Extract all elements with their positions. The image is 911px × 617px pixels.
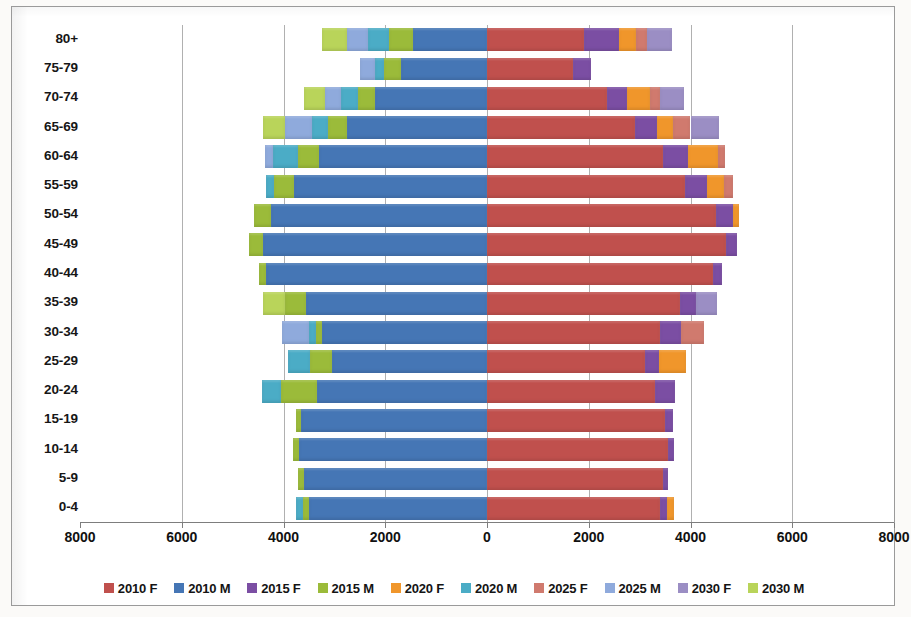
bar-row [80,438,894,461]
bar-segment [273,145,297,168]
legend-item[interactable]: 2020 M [461,581,517,596]
bar-segment [685,175,706,198]
bar-segment [298,468,304,491]
legend-label: 2020 M [475,581,517,596]
legend-item[interactable]: 2010 M [174,581,230,596]
bar-segment [636,28,647,51]
bar-row [80,58,894,81]
x-axis-label: 4000 [675,529,706,545]
bar-segment [288,350,311,373]
bar-row [80,87,894,110]
legend-item[interactable]: 2025 M [605,581,661,596]
legend-label: 2010 M [188,581,230,596]
bar-segment [660,497,667,520]
bar-segment [303,497,309,520]
y-axis-label: 0-4 [59,499,78,514]
bar-segment [733,204,739,227]
bar-segment [322,28,346,51]
bar-segment [328,116,347,139]
bar-segment [317,380,487,403]
bar-segment [659,350,686,373]
y-axis-label: 70-74 [44,89,78,104]
legend-item[interactable]: 2015 M [318,581,374,596]
bar-segment [667,497,675,520]
legend-item[interactable]: 2020 F [391,581,444,596]
y-axis-label: 25-29 [44,353,78,368]
x-tick [487,523,488,528]
y-axis-label: 30-34 [44,324,78,339]
bar-segment [263,116,285,139]
bar-row [80,28,894,51]
bar-segment [663,468,669,491]
bar-segment [285,116,313,139]
bar-row [80,380,894,403]
bar-segment [304,87,324,110]
x-tick [792,523,793,528]
bar-segment [281,380,317,403]
bar-segment [663,145,688,168]
legend-swatch-icon [391,583,401,593]
x-axis-label: 8000 [878,529,909,545]
legend-swatch-icon [318,583,328,593]
bar-segment [294,175,487,198]
bar-segment [487,497,660,520]
bar-row [80,233,894,256]
bar-segment [707,175,724,198]
bar-segment [375,87,487,110]
bar-segment [413,28,487,51]
chart-page: 80+75-7970-7465-6960-6455-5950-5445-4940… [0,0,911,617]
bar-segment [263,292,285,315]
y-axis-label: 45-49 [44,236,78,251]
legend-item[interactable]: 2025 F [534,581,587,596]
legend-item[interactable]: 2015 F [247,581,300,596]
bar-segment [325,87,342,110]
bar-segment [249,233,263,256]
bar-segment [401,58,487,81]
bar-segment [259,263,266,286]
bar-segment [718,145,725,168]
x-tick [691,523,692,528]
legend-label: 2015 M [332,581,374,596]
y-axis: 80+75-7970-7465-6960-6455-5950-5445-4940… [26,7,78,523]
legend-item[interactable]: 2030 M [748,581,804,596]
plot-area [80,25,894,523]
bar-segment [271,204,487,227]
bar-segment [310,350,331,373]
chart-legend: 2010 F2010 M2015 F2015 M2020 F2020 M2025… [26,574,882,602]
legend-item[interactable]: 2010 F [104,581,157,596]
bar-segment [487,321,660,344]
bar-segment [304,468,487,491]
legend-swatch-icon [534,583,544,593]
x-tick [894,523,895,528]
bar-segment [341,87,358,110]
bar-segment [487,409,665,432]
bar-segment [301,409,487,432]
bar-segment [487,350,645,373]
bar-segment [487,468,663,491]
x-axis-label: 8000 [64,529,95,545]
bar-segment [487,175,685,198]
x-axis-label: 2000 [370,529,401,545]
legend-label: 2010 F [118,581,157,596]
bar-segment [726,233,737,256]
legend-swatch-icon [247,583,257,593]
y-axis-label: 15-19 [44,411,78,426]
bar-segment [285,292,306,315]
bar-segment [322,321,487,344]
y-axis-label: 10-14 [44,441,78,456]
bar-segment [665,409,673,432]
bar-segment [293,438,299,461]
bar-segment [584,28,620,51]
bar-segment [647,28,671,51]
y-axis-label: 50-54 [44,206,78,221]
bar-segment [724,175,733,198]
bar-segment [487,87,607,110]
bar-segment [332,350,487,373]
bar-segment [487,58,573,81]
legend-label: 2030 M [762,581,804,596]
y-axis-label: 65-69 [44,119,78,134]
legend-item[interactable]: 2030 F [678,581,731,596]
bar-segment [655,380,675,403]
legend-swatch-icon [748,583,758,593]
bar-segment [688,145,719,168]
